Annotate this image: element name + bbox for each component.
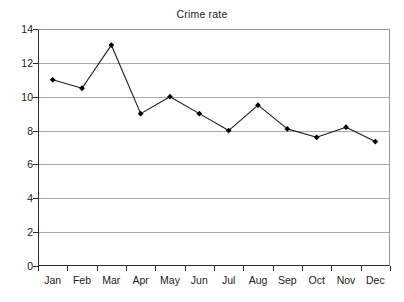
x-axis-tick-mark [273,266,274,271]
x-axis-tick-mark [185,266,186,271]
x-axis-tick-mark [97,266,98,271]
x-axis-tick-mark [243,266,244,271]
x-axis-tick-label: Dec [366,275,385,286]
series-line [53,45,376,141]
data-point-marker [196,111,202,117]
data-point-marker [167,94,173,100]
data-point-marker [314,134,320,140]
crime-rate-line-chart: Crime rate 02468101214 JanFebMarAprMayJu… [0,0,404,302]
x-axis-tick-label: Aug [249,275,268,286]
x-axis-tick-label: Nov [337,275,356,286]
plot-area [38,29,390,266]
x-axis-tick-mark [390,266,391,271]
x-axis-tick-mark [155,266,156,271]
x-axis-tick-mark [38,266,39,271]
x-axis-tick-label: Oct [308,275,324,286]
x-axis-tick-label: Jun [191,275,208,286]
x-axis-label-group: JanFebMarAprMayJunJulAugSepOctNovDec [38,275,390,293]
x-axis-tick-label: May [160,275,180,286]
x-axis-tick-label: Apr [132,275,148,286]
x-axis-tick-mark [214,266,215,271]
x-axis-tick-label: Feb [73,275,91,286]
x-axis-tick-label: Mar [102,275,120,286]
data-point-marker [138,111,144,117]
data-point-marker [372,139,378,145]
x-axis-tick-mark [302,266,303,271]
chart-title: Crime rate [0,8,404,20]
x-axis-tick-mark [331,266,332,271]
x-axis-tick-mark [126,266,127,271]
x-axis-tick-label: Sep [278,275,297,286]
x-axis-tick-mark [67,266,68,271]
data-point-marker [343,124,349,130]
x-axis-tick-label: Jul [222,275,235,286]
series-crime-rate [38,29,390,266]
x-axis-tick-mark [361,266,362,271]
y-axis-tick-group [0,29,38,266]
x-axis-tick-group [38,266,390,272]
data-point-marker [50,77,56,83]
x-axis-tick-label: Jan [44,275,61,286]
